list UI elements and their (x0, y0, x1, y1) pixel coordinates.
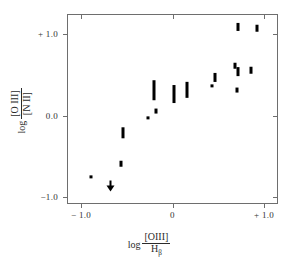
y-tick-mark (63, 116, 68, 117)
x-tick-mark-top (81, 14, 82, 19)
data-point-upper-limit (106, 180, 115, 191)
x-tick-mark (173, 203, 174, 208)
x-axis-denominator-subscript: β (158, 249, 162, 257)
x-axis-log-word: log (128, 239, 141, 250)
data-point (153, 81, 156, 101)
x-axis-denominator: Hβ (142, 244, 170, 258)
data-point (255, 25, 258, 32)
x-axis-title: log[OIII]Hβ (0, 232, 298, 257)
x-tick-label: 0 (170, 210, 175, 220)
plot-frame (67, 14, 278, 204)
x-tick-mark (81, 203, 82, 208)
x-tick-mark-top (264, 14, 265, 19)
data-point (235, 88, 238, 93)
down-arrow-icon (106, 185, 114, 191)
data-point (155, 108, 158, 113)
data-point (213, 73, 216, 81)
data-point (146, 117, 149, 120)
y-axis-numerator: [O III] (10, 88, 22, 118)
x-tick-label: + 1.0 (254, 210, 274, 220)
x-tick-mark-top (173, 14, 174, 19)
data-point (237, 23, 240, 31)
x-tick-label: − 1.0 (71, 210, 91, 220)
y-tick-mark-right (273, 116, 278, 117)
scatter-plot-figure: − 1.00+ 1.0+ 1.00.0−1.0 log[OIII]Hβ log[… (0, 0, 298, 267)
y-tick-mark (63, 197, 68, 198)
data-point (210, 84, 213, 87)
y-axis-log-word: log (16, 121, 27, 134)
data-point (90, 175, 93, 178)
y-tick-mark (63, 34, 68, 35)
y-tick-mark-right (273, 197, 278, 198)
y-axis-title: log[O III][N II] (10, 56, 32, 166)
data-point (250, 67, 253, 74)
data-point (172, 86, 175, 104)
y-axis-ratio: [O III][N II] (10, 88, 32, 118)
plot-data-area (68, 15, 277, 203)
data-point (236, 67, 239, 77)
y-tick-label: −1.0 (18, 192, 58, 202)
data-point (186, 81, 189, 97)
data-point (122, 127, 125, 138)
y-tick-mark-right (273, 34, 278, 35)
y-tick-label: + 1.0 (18, 29, 58, 39)
x-axis-ratio: [OIII]Hβ (142, 232, 170, 257)
y-axis-denominator: [N II] (22, 88, 33, 118)
x-tick-mark (264, 203, 265, 208)
data-point (120, 161, 123, 168)
